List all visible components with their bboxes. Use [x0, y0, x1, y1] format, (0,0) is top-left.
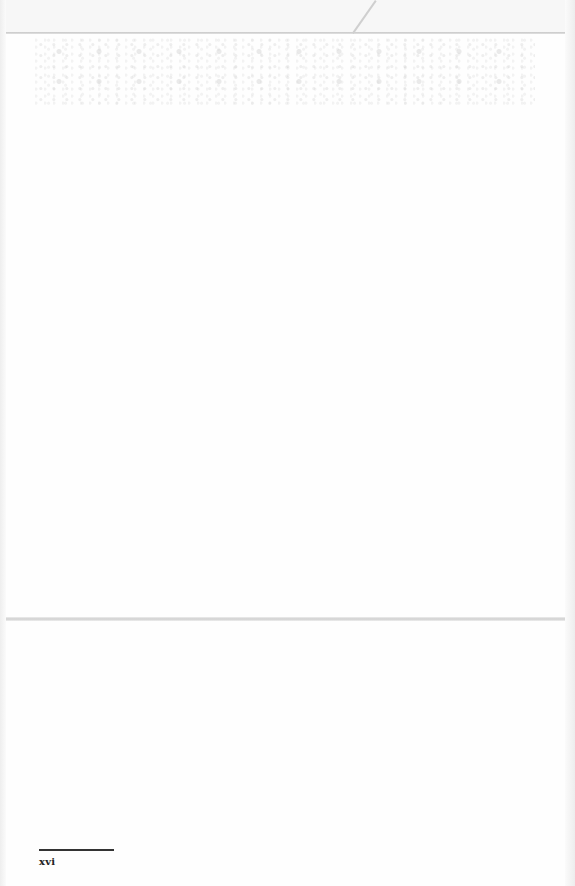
footer-rule	[39, 849, 114, 851]
page-edge-right	[565, 0, 575, 886]
page-number: xvi	[39, 856, 55, 867]
fold-line-middle	[0, 617, 575, 621]
fold-line-top	[0, 32, 575, 34]
scan-noise	[35, 38, 535, 108]
scanned-page: xvi	[0, 0, 575, 886]
scan-top-margin	[0, 0, 575, 32]
page-edge-left	[0, 0, 6, 886]
